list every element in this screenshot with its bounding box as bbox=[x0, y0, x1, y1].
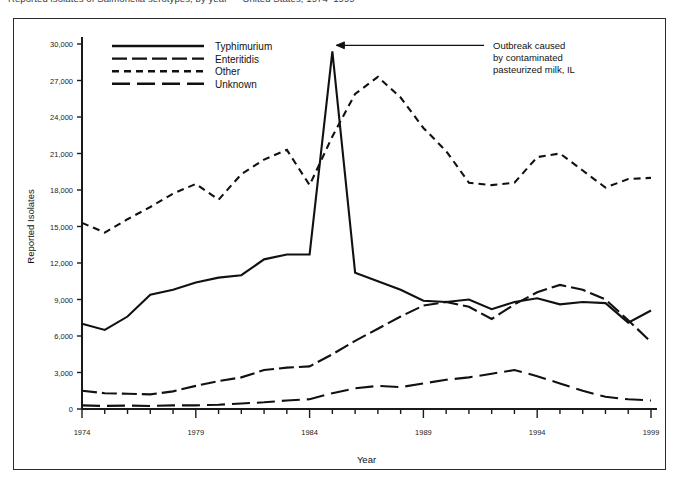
legend-label-unknown: Unknown bbox=[215, 79, 257, 90]
y-tick-label: 24,000 bbox=[50, 113, 73, 122]
series-line-typhimurium bbox=[82, 51, 651, 330]
annotation-text-line: pasteurized milk, IL bbox=[493, 64, 575, 75]
y-tick-label: 0 bbox=[69, 405, 73, 414]
y-tick-label: 9,000 bbox=[54, 296, 73, 305]
y-tick-label: 6,000 bbox=[54, 332, 73, 341]
y-tick-label: 18,000 bbox=[50, 186, 73, 195]
x-axis-title: Year bbox=[357, 454, 376, 465]
x-tick-label: 1974 bbox=[74, 428, 91, 437]
y-tick-label: 3,000 bbox=[54, 369, 73, 378]
y-tick-label: 21,000 bbox=[50, 150, 73, 159]
x-tick-label: 1999 bbox=[643, 428, 660, 437]
line-chart: 03,0006,0009,00012,00015,00018,00021,000… bbox=[14, 19, 664, 468]
annotation-text-line: by contaminated bbox=[493, 52, 563, 63]
figure-root: Reported isolates of Salmonella serotype… bbox=[0, 0, 679, 481]
x-tick-label: 1979 bbox=[187, 428, 204, 437]
series-line-other bbox=[82, 77, 651, 233]
legend-label-typhimurium: Typhimurium bbox=[215, 41, 272, 52]
series-line-unknown bbox=[82, 370, 651, 406]
annotation-text-line: Outbreak caused bbox=[493, 40, 565, 51]
y-tick-label: 12,000 bbox=[50, 259, 73, 268]
cutoff-title-strip: Reported isolates of Salmonella serotype… bbox=[0, 0, 679, 14]
figure-caption-cutoff: Reported isolates of Salmonella serotype… bbox=[8, 0, 355, 4]
y-tick-label: 15,000 bbox=[50, 223, 73, 232]
y-tick-label: 27,000 bbox=[50, 77, 73, 86]
legend-label-enteritidis: Enteritidis bbox=[215, 54, 259, 65]
chart-frame: 03,0006,0009,00012,00015,00018,00021,000… bbox=[13, 18, 666, 470]
y-axis-title: Reported Isolates bbox=[25, 189, 36, 264]
series-line-enteritidis bbox=[82, 285, 651, 395]
x-tick-label: 1989 bbox=[415, 428, 432, 437]
legend-label-other: Other bbox=[215, 66, 241, 77]
y-tick-label: 30,000 bbox=[50, 40, 73, 49]
x-tick-label: 1984 bbox=[301, 428, 318, 437]
annotation-arrowhead bbox=[336, 42, 344, 49]
x-tick-label: 1994 bbox=[529, 428, 546, 437]
